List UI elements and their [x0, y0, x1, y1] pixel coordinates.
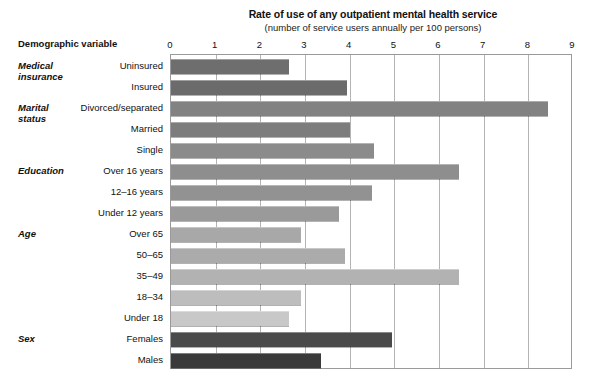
category-label: 12–16 years [10, 186, 168, 197]
bar [171, 227, 301, 242]
group-label: Education [18, 165, 138, 177]
x-tick-label: 5 [391, 39, 396, 50]
bar [171, 122, 350, 137]
x-tick-label: 4 [346, 39, 351, 50]
x-tick-label: 7 [480, 39, 485, 50]
bar [171, 143, 374, 158]
bar [171, 269, 459, 284]
category-label: Under 12 years [10, 207, 168, 218]
bar [171, 185, 372, 200]
plot-area [170, 54, 572, 369]
category-label: Males [10, 354, 168, 365]
category-label: Under 18 [10, 312, 168, 323]
group-label: Marital status [18, 102, 138, 125]
bar [171, 59, 289, 74]
group-label: Medical insurance [18, 60, 138, 83]
chart-figure: Rate of use of any outpatient mental hea… [0, 0, 608, 375]
bar [171, 311, 289, 326]
x-tick-label: 3 [301, 39, 306, 50]
chart-subtitle: (number of service users annually per 10… [168, 22, 578, 33]
category-labels-column: UninsuredInsuredDivorced/separatedMarrie… [0, 54, 168, 369]
bar [171, 248, 345, 263]
category-label: 35–49 [10, 270, 168, 281]
x-tick-label: 2 [257, 39, 262, 50]
category-label: Single [10, 144, 168, 155]
category-label: 50–65 [10, 249, 168, 260]
bar [171, 80, 347, 95]
bar [171, 290, 301, 305]
bar [171, 332, 392, 347]
bar [171, 101, 548, 116]
demographic-variable-caption: Demographic variable [18, 38, 117, 49]
group-label: Age [18, 228, 138, 240]
category-label: 18–34 [10, 291, 168, 302]
x-tick-label: 6 [435, 39, 440, 50]
x-tick-label: 9 [569, 39, 574, 50]
x-tick-label: 0 [167, 39, 172, 50]
chart-title: Rate of use of any outpatient mental hea… [168, 8, 578, 20]
x-tick-label: 1 [212, 39, 217, 50]
x-tick-label: 8 [525, 39, 530, 50]
bar [171, 164, 459, 179]
bar [171, 353, 321, 368]
bar [171, 206, 339, 221]
group-label: Sex [18, 333, 138, 345]
